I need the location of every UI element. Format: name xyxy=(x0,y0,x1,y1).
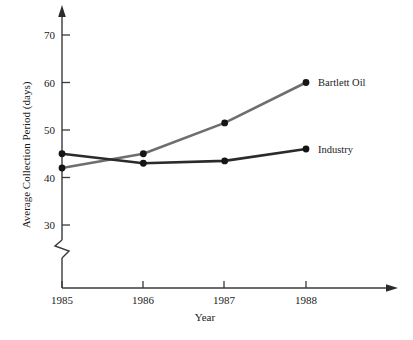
data-point-marker xyxy=(303,79,310,86)
y-tick-label-40: 40 xyxy=(44,172,56,184)
data-point-marker xyxy=(140,160,147,167)
data-point-marker xyxy=(140,150,147,157)
x-tick-label-1988: 1988 xyxy=(295,294,318,306)
series-markers-industry xyxy=(59,146,310,167)
data-point-marker xyxy=(59,150,66,157)
x-tick-label-1987: 1987 xyxy=(213,294,236,306)
data-point-marker xyxy=(303,146,310,153)
y-tick-label-60: 60 xyxy=(44,77,56,89)
y-axis xyxy=(55,5,69,288)
series-industry xyxy=(59,146,310,167)
x-axis xyxy=(62,284,398,292)
x-axis-title: Year xyxy=(195,311,216,323)
chart-container: 70 60 50 40 30 Average Collection Period… xyxy=(0,0,413,340)
x-axis-ticks: 1985 1986 1987 1988 xyxy=(51,281,318,306)
data-point-marker xyxy=(221,157,228,164)
y-tick-label-70: 70 xyxy=(44,29,56,41)
x-tick-label-1985: 1985 xyxy=(51,294,74,306)
series-label-bartlett-oil: Bartlett Oil xyxy=(318,77,366,88)
line-chart-canvas: 70 60 50 40 30 Average Collection Period… xyxy=(0,0,413,340)
y-axis-title: Average Collection Period (days) xyxy=(20,81,33,228)
x-axis-arrow-icon xyxy=(386,284,398,292)
y-axis-ticks: 70 60 50 40 30 xyxy=(44,29,70,231)
y-axis-arrow-icon xyxy=(58,5,66,17)
data-point-marker xyxy=(221,119,228,126)
y-axis-break-icon xyxy=(55,240,69,258)
data-point-marker xyxy=(59,165,66,172)
y-tick-label-30: 30 xyxy=(44,219,56,231)
series-label-industry: Industry xyxy=(318,144,354,155)
y-tick-label-50: 50 xyxy=(44,124,56,136)
x-tick-label-1986: 1986 xyxy=(132,294,155,306)
